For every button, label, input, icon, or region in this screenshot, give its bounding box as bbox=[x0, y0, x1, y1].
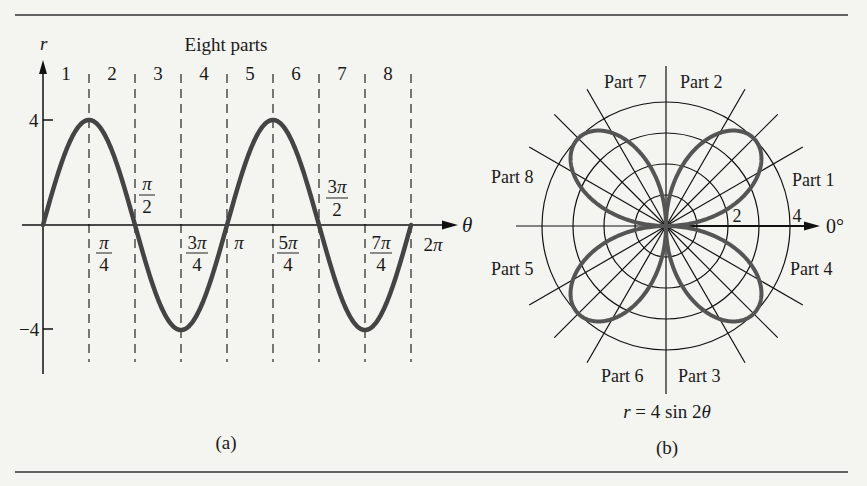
part-6-label: Part 6 bbox=[601, 366, 644, 386]
part-number: 1 bbox=[61, 63, 71, 84]
svg-text:4: 4 bbox=[99, 254, 109, 275]
svg-text:4: 4 bbox=[283, 254, 293, 275]
polar-axis-arrow-icon bbox=[804, 222, 820, 231]
svg-text:π: π bbox=[99, 232, 109, 253]
equation: r = 4 sin 2θ bbox=[623, 401, 711, 422]
part-number: 6 bbox=[291, 63, 301, 84]
part-3-label: Part 3 bbox=[678, 366, 721, 386]
part-5-label: Part 5 bbox=[491, 259, 534, 279]
figure-canvas: 4 −4 r θ Eight parts 12345678 π 4 π 2 3π… bbox=[0, 0, 867, 486]
svg-text:π: π bbox=[234, 232, 244, 253]
caption-b: (b) bbox=[656, 437, 678, 459]
caption-a: (a) bbox=[215, 432, 236, 454]
x-axis-label: θ bbox=[462, 213, 472, 237]
polar-axis-label: 0° bbox=[826, 215, 844, 237]
svg-text:4: 4 bbox=[376, 254, 386, 275]
part-8-label: Part 8 bbox=[491, 167, 534, 187]
svg-text:7π: 7π bbox=[371, 232, 391, 253]
radial-tick-2: 2 bbox=[733, 206, 742, 226]
part-1-label: Part 1 bbox=[792, 170, 835, 190]
part-2-label: Part 2 bbox=[680, 72, 723, 92]
part-number: 2 bbox=[107, 63, 117, 84]
radial-tick-4: 4 bbox=[793, 206, 802, 226]
svg-text:5π: 5π bbox=[278, 232, 298, 253]
polar-plot: 2 4 0° Part 1 Part 2 Part 3 Part 4 Part … bbox=[491, 66, 844, 459]
x-tick-labels: π 4 π 2 3π 4 π 5π 4 3π 2 bbox=[96, 173, 443, 275]
y-tick-4: 4 bbox=[29, 110, 39, 131]
part-number: 5 bbox=[245, 63, 255, 84]
x-axis-arrow-icon bbox=[442, 221, 458, 230]
figure: 4 −4 r θ Eight parts 12345678 π 4 π 2 3π… bbox=[0, 0, 867, 486]
svg-text:2π: 2π bbox=[423, 234, 443, 255]
part-number: 8 bbox=[383, 63, 393, 84]
svg-text:2: 2 bbox=[332, 199, 342, 220]
part-number: 3 bbox=[153, 63, 163, 84]
part-4-label: Part 4 bbox=[790, 259, 833, 279]
svg-text:3π: 3π bbox=[187, 232, 207, 253]
svg-text:3π: 3π bbox=[327, 176, 347, 197]
part-number: 7 bbox=[337, 63, 347, 84]
y-tick-neg4: −4 bbox=[19, 319, 40, 340]
cartesian-plot: 4 −4 r θ Eight parts 12345678 π 4 π 2 3π… bbox=[19, 33, 472, 454]
part-7-label: Part 7 bbox=[604, 72, 647, 92]
part-number: 4 bbox=[199, 63, 209, 84]
svg-text:4: 4 bbox=[192, 254, 202, 275]
plot-title: Eight parts bbox=[185, 34, 268, 55]
svg-text:π: π bbox=[142, 173, 152, 194]
svg-text:2: 2 bbox=[142, 196, 152, 217]
y-axis-label: r bbox=[40, 33, 48, 54]
y-axis-arrow-icon bbox=[39, 60, 47, 74]
